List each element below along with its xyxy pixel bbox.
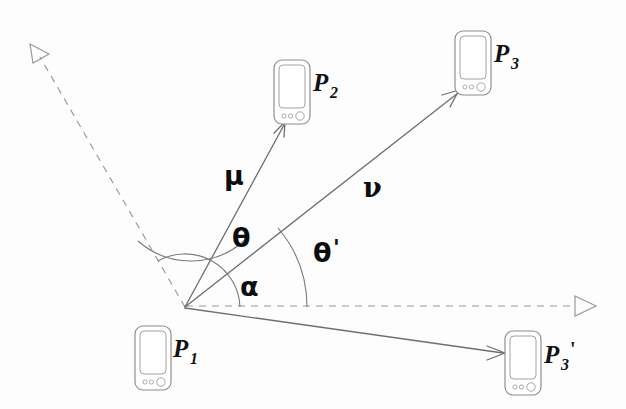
- smartphone-icon-p3prime[interactable]: [505, 331, 541, 395]
- arc-theta: [138, 239, 246, 261]
- label-p2: P 2: [312, 69, 338, 101]
- smartphone-icon-p2[interactable]: [274, 60, 310, 124]
- label-p3-letter: P: [493, 40, 510, 67]
- vector-nu: [185, 90, 459, 307]
- angle-geometry-diagram: P 1 P 2 P 3 P 3 ' μ ν θ θ ' α: [0, 0, 626, 409]
- label-p3prime-prime: ': [570, 338, 576, 360]
- label-p1-letter: P: [172, 335, 189, 362]
- label-nu: ν: [363, 172, 382, 203]
- vector-mu-line: [185, 125, 284, 307]
- dashed-upper-left-line: [40, 57, 185, 307]
- open-triangle-arrowhead-icon: [575, 296, 596, 316]
- label-theta-prime-mark: ': [333, 235, 340, 260]
- label-theta-prime: θ: [313, 237, 332, 268]
- label-p1-subscript: 1: [190, 350, 198, 367]
- label-mu: μ: [224, 160, 244, 191]
- vector-mu: [185, 122, 285, 307]
- label-alpha: α: [240, 271, 259, 302]
- label-p3prime: P 3 ': [543, 338, 576, 373]
- label-theta: θ: [232, 222, 251, 253]
- smartphone-icon-p1[interactable]: [135, 326, 171, 390]
- label-p3-subscript: 3: [510, 55, 519, 72]
- arc-theta-prime: [278, 228, 307, 307]
- label-p3prime-subscript: 3: [560, 356, 569, 373]
- label-p2-subscript: 2: [329, 84, 338, 101]
- vector-p3prime-line: [185, 308, 503, 353]
- smartphone-icon-p3[interactable]: [455, 31, 491, 95]
- label-p1: P 1: [172, 335, 198, 367]
- label-p2-letter: P: [312, 69, 329, 96]
- diagram-root: P 1 P 2 P 3 P 3 ' μ ν θ θ ' α: [0, 0, 626, 409]
- label-p3: P 3: [493, 40, 519, 72]
- vector-nu-line: [185, 93, 458, 307]
- reference-ray-upper-left: [30, 44, 185, 307]
- label-theta-prime-group: θ ': [313, 235, 340, 268]
- vector-p3prime: [185, 308, 505, 360]
- open-triangle-arrowhead-icon: [30, 44, 49, 63]
- label-p3prime-letter: P: [543, 341, 560, 368]
